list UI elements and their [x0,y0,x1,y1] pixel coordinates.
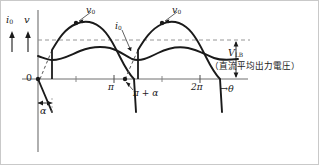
firing-point-origin [36,77,40,81]
x-axis-direction-label: →θ [220,83,234,94]
v0-curve-label-1: v0 [86,4,95,15]
i0-axis-arrow-head [9,31,15,38]
i0-curve-label: i0 [115,20,122,31]
current-axis-label: i0 [6,14,13,25]
v0-curve-label-2: v0 [172,4,181,15]
figure-root: i0 v 0 v0 v0 i0 π π + α 2π →θ α VLB （直流平… [0,0,319,165]
x-tick-label-pi: π [108,82,114,92]
v0-curve-segment-1 [52,22,136,112]
dc-average-voltage-label: VLB [228,47,243,58]
peak-marker-2 [160,21,164,25]
origin-label: 0 [26,72,32,83]
x-tick-label-pi-plus-alpha: π + α [133,88,158,98]
x-tick-label-2pi: 2π [191,82,203,92]
dc-average-voltage-caption: （直流平均出力電圧） [210,59,300,71]
vlb-arrow-up [234,41,239,46]
waveform-canvas [0,0,319,165]
peak-marker-1 [74,21,78,25]
voltage-axis-label: v [24,14,30,25]
v-axis-arrow-head [25,31,31,38]
vlb-arrow-down [234,73,239,78]
v0-commutation-dashed-1 [40,50,52,79]
firing-angle-label: α [40,105,46,116]
firing-point-pi-plus-alpha [123,77,127,81]
